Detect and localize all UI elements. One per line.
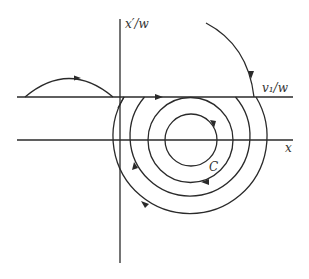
orbit-4-stub [118,97,124,108]
label-vertical-axis: x′/w [125,17,150,31]
label-curve-c: C [209,160,218,174]
incoming-trajectory [206,23,254,97]
phase-diagram: x′/w v₁/w x C [0,0,309,279]
diagram-canvas: x′/w v₁/w x C [0,0,309,279]
label-x-axis: x [285,141,292,155]
label-upper-line: v₁/w [262,81,289,95]
arrow-upleft-icon [141,201,149,208]
arrow-right-icon [155,94,163,100]
left-hump-trajectory [25,79,113,98]
